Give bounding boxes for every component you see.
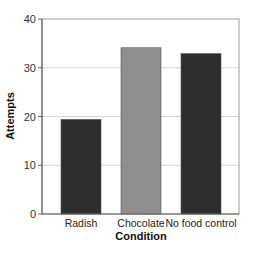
x-axis-labels: RadishChocolateNo food control	[65, 217, 237, 229]
y-tick-label: 30	[24, 62, 36, 74]
x-tick-label: Radish	[65, 217, 98, 229]
y-tick-label: 40	[24, 13, 36, 25]
bar-chart: 010203040 RadishChocolateNo food control…	[0, 0, 253, 258]
y-axis-title: Attempts	[4, 92, 16, 140]
y-tick-label: 0	[30, 208, 36, 220]
x-tick-label: Chocolate	[117, 217, 164, 229]
bars	[61, 48, 221, 214]
y-axis-ticks: 010203040	[24, 13, 42, 220]
x-tick-label: No food control	[165, 217, 236, 229]
x-axis-title: Condition	[115, 230, 167, 242]
bar-no-food-control	[181, 54, 221, 214]
bar-radish	[61, 119, 101, 214]
y-tick-label: 20	[24, 111, 36, 123]
y-tick-label: 10	[24, 159, 36, 171]
bar-chocolate	[121, 48, 161, 214]
